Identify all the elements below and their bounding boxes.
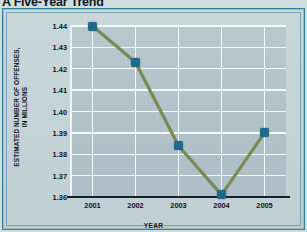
y-axis-tick-labels: 1.361.371.381.391.401.411.421.431.44	[33, 26, 67, 197]
x-axis-tick-label: 2005	[245, 201, 285, 210]
chart-title: A Five-Year Trend	[2, 0, 104, 9]
y-axis-tick-label: 1.41	[39, 86, 67, 95]
y-axis-tick-label: 1.44	[39, 22, 67, 31]
x-axis-tick-label: 2001	[73, 201, 113, 210]
x-axis-tick-label: 2003	[159, 201, 199, 210]
y-axis-tick-label: 1.39	[39, 128, 67, 137]
y-axis-tick-label: 1.37	[39, 171, 67, 180]
y-axis-tick-label: 1.42	[39, 64, 67, 73]
x-axis-label: YEAR	[3, 222, 304, 229]
data-point-marker	[131, 58, 140, 67]
data-point-marker	[217, 190, 226, 199]
data-point-marker	[174, 141, 183, 150]
y-axis-tick-label: 1.43	[39, 43, 67, 52]
data-line	[71, 26, 286, 197]
chart-card: ESTIMATED NUMBER OF OFFENSES, IN MILLION…	[2, 8, 305, 230]
y-axis-tick-label: 1.36	[39, 193, 67, 202]
x-axis-tick-label: 2004	[202, 201, 242, 210]
data-point-marker	[260, 128, 269, 137]
y-axis-tick-label: 1.38	[39, 150, 67, 159]
x-axis-tick-label: 2002	[116, 201, 156, 210]
y-axis-label: ESTIMATED NUMBER OF OFFENSES, IN MILLION…	[13, 27, 27, 187]
y-axis-tick-label: 1.40	[39, 107, 67, 116]
data-point-marker	[88, 22, 97, 31]
